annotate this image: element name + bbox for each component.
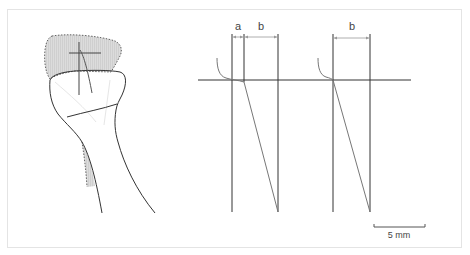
dimension-b-right [334, 37, 369, 40]
scale-bar-label: 5 mm [388, 230, 411, 240]
physis-line [67, 104, 117, 117]
profile-diagonal-2 [333, 80, 370, 212]
label-b: b [258, 20, 264, 32]
label-a: a [235, 20, 242, 32]
dimension-a [233, 36, 243, 39]
dimension-b [245, 36, 277, 39]
bone-head-outline [50, 70, 126, 110]
measurement-panel-a-b: a b [198, 20, 411, 212]
profile-curve-1 [217, 58, 244, 82]
profile-curve-2 [318, 58, 333, 80]
shaded-region-shaft [82, 142, 95, 187]
bone-right-contour [115, 110, 155, 213]
bone-illustration [45, 35, 155, 213]
profile-diagonal-1 [244, 82, 278, 212]
label-b-right: b [349, 20, 355, 32]
scale-bar: 5 mm [374, 224, 425, 240]
bone-left-contour [50, 80, 102, 213]
measurement-panel-b: b [318, 20, 370, 212]
diagram-canvas: a b b 5 mm [0, 0, 470, 255]
